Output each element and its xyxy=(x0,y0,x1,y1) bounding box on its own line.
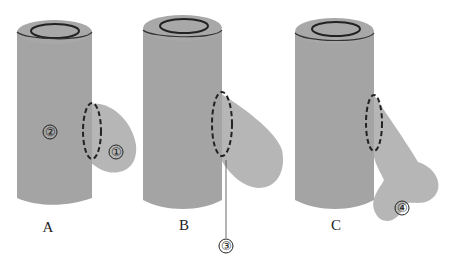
marker-1: ① xyxy=(111,145,122,159)
trunk-a xyxy=(17,32,92,205)
diagram-canvas: ② ① A ③ B ④ C xyxy=(0,0,457,266)
marker-4: ④ xyxy=(397,201,408,215)
panel-b: ③ B xyxy=(143,15,283,253)
branch-a xyxy=(86,103,136,172)
panel-a: ② ① A xyxy=(17,20,136,235)
label-c: C xyxy=(331,217,341,233)
trunk-c xyxy=(295,32,374,209)
label-a: A xyxy=(43,219,54,235)
marker-3: ③ xyxy=(221,239,232,253)
trunk-b xyxy=(143,30,222,209)
marker-2: ② xyxy=(45,125,56,139)
label-b: B xyxy=(179,217,189,233)
branch-b xyxy=(218,92,283,188)
panel-c: ④ C xyxy=(295,18,439,233)
